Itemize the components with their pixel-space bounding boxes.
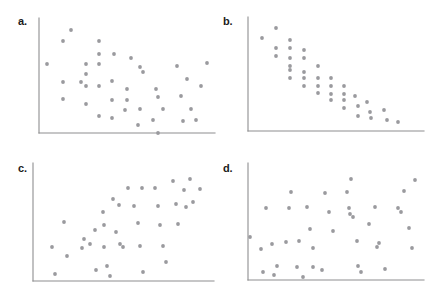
data-point: [342, 84, 346, 88]
data-point: [260, 36, 264, 40]
data-point: [264, 206, 268, 210]
data-point: [126, 186, 130, 190]
data-point: [182, 188, 186, 192]
data-point: [410, 246, 414, 250]
data-point: [153, 186, 157, 190]
data-point: [171, 179, 175, 183]
data-point: [302, 56, 306, 60]
data-point: [345, 190, 349, 194]
data-point: [331, 229, 335, 233]
panel-d-axes: [248, 163, 424, 280]
data-point: [353, 94, 357, 98]
panel-b-points: [260, 26, 400, 124]
data-point: [101, 210, 105, 214]
data-point: [102, 245, 106, 249]
data-point: [311, 265, 315, 269]
data-point: [112, 52, 116, 56]
data-point: [272, 273, 276, 277]
data-point: [329, 98, 333, 102]
data-point: [97, 62, 101, 66]
data-point: [61, 39, 65, 43]
data-point: [305, 205, 309, 209]
data-point: [80, 246, 84, 250]
data-point: [302, 84, 306, 88]
data-point: [110, 79, 114, 83]
data-point: [302, 76, 306, 80]
panel-b-label: b.: [223, 16, 232, 27]
data-point: [97, 39, 101, 43]
data-point: [151, 118, 155, 122]
data-point: [88, 242, 92, 246]
panel-a-label: a.: [18, 16, 27, 27]
data-point: [185, 77, 189, 81]
data-point: [156, 131, 160, 135]
data-point: [368, 110, 372, 114]
data-point: [45, 62, 49, 66]
data-point: [141, 70, 145, 74]
data-point: [158, 223, 162, 227]
data-point: [302, 70, 306, 74]
data-point: [121, 245, 125, 249]
data-point: [129, 56, 133, 60]
data-point: [93, 228, 97, 232]
data-point: [97, 52, 101, 56]
data-point: [342, 98, 346, 102]
data-point: [65, 254, 69, 258]
data-point: [94, 268, 98, 272]
data-point: [274, 46, 278, 50]
panel-a-points: [45, 28, 209, 135]
data-point: [288, 68, 292, 72]
data-point: [369, 116, 373, 120]
data-point: [110, 98, 114, 102]
scatterplot-figure: a. b. c. d.: [0, 0, 433, 296]
data-point: [367, 222, 371, 226]
data-point: [355, 239, 359, 243]
data-point: [402, 189, 406, 193]
panel-c-points: [50, 177, 202, 278]
data-point: [125, 98, 129, 102]
data-point: [320, 268, 324, 272]
data-point: [62, 220, 66, 224]
data-point: [274, 26, 278, 30]
panel-c-axes: [33, 163, 214, 281]
data-point: [161, 244, 165, 248]
data-point: [316, 64, 320, 68]
data-point: [114, 230, 118, 234]
data-point: [288, 76, 292, 80]
data-point: [84, 84, 88, 88]
data-point: [191, 200, 195, 204]
data-point: [156, 95, 160, 99]
data-point: [138, 107, 142, 111]
data-point: [117, 203, 121, 207]
data-point: [84, 102, 88, 106]
data-point: [329, 92, 333, 96]
data-point: [316, 76, 320, 80]
data-point: [407, 226, 411, 230]
data-point: [377, 241, 381, 245]
panel-d-plot: [0, 0, 433, 296]
data-point: [259, 247, 263, 251]
data-point: [97, 84, 101, 88]
data-point: [385, 118, 389, 122]
panel-a-axes: [39, 18, 215, 133]
data-point: [399, 210, 403, 214]
data-point: [329, 76, 333, 80]
data-point: [125, 87, 129, 91]
data-point: [297, 239, 301, 243]
data-point: [348, 212, 352, 216]
data-point: [205, 61, 209, 65]
data-point: [97, 114, 101, 118]
data-point: [396, 120, 400, 124]
data-point: [316, 91, 320, 95]
data-point: [188, 177, 192, 181]
data-point: [275, 264, 279, 268]
data-point: [396, 206, 400, 210]
data-point: [311, 246, 315, 250]
data-point: [261, 270, 265, 274]
data-point: [383, 267, 387, 271]
data-point: [342, 92, 346, 96]
data-point: [288, 64, 292, 68]
data-point: [79, 80, 83, 84]
panel-d-label: d.: [223, 163, 232, 174]
data-point: [382, 108, 386, 112]
